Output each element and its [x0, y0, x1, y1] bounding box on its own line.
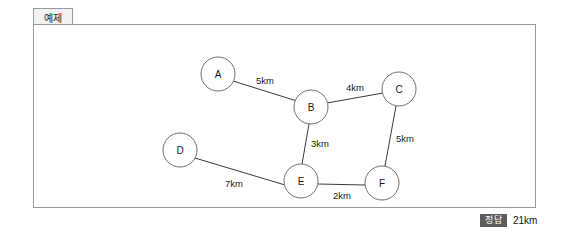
edge-weight-label: 3km [311, 138, 329, 149]
node-label: D [176, 145, 183, 156]
graph-edge [302, 124, 309, 164]
graph-edge [318, 184, 365, 185]
edge-weight-label: 4km [346, 82, 364, 93]
graph-node-c: C [382, 72, 416, 106]
graph-node-b: B [294, 90, 328, 124]
graph-node-f: F [365, 166, 399, 200]
node-label: F [379, 178, 385, 189]
edge-weight-label: 2km [333, 190, 351, 201]
graph-node-e: E [284, 164, 318, 198]
node-label: A [215, 69, 222, 80]
tab-example[interactable]: 예제 [33, 8, 73, 25]
answer-badge: 정답 [480, 214, 507, 227]
edge-weight-label: 7km [225, 178, 243, 189]
node-label: B [308, 102, 315, 113]
graph-node-a: A [201, 57, 235, 91]
edge-weight-label: 5km [256, 75, 274, 86]
answer-row: 정답 21km [480, 213, 537, 228]
edge-weight-label: 5km [396, 133, 414, 144]
node-label: E [298, 176, 305, 187]
answer-value: 21km [513, 215, 537, 226]
graph-edge [327, 93, 383, 103]
diagram-panel: 5km4km3km5km7km2km ABCDEF [33, 24, 536, 208]
graph-diagram: 5km4km3km5km7km2km ABCDEF [34, 25, 537, 209]
node-label: C [395, 84, 402, 95]
graph-nodes: ABCDEF [163, 57, 416, 200]
tab-example-label: 예제 [44, 10, 63, 25]
graph-edge [385, 106, 396, 166]
exercise-card: 예제 5km4km3km5km7km2km ABCDEF 정답 21km [0, 0, 571, 236]
graph-node-d: D [163, 133, 197, 167]
